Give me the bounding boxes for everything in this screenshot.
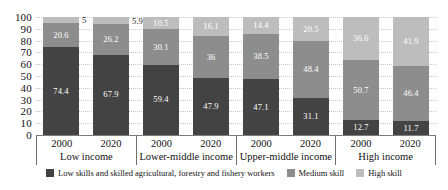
bar-segment-low[interactable]: 47.9	[193, 78, 229, 135]
y-axis-tick-label: 70	[0, 47, 32, 58]
bar-segment-med[interactable]: 36	[193, 36, 229, 78]
bar-segment-low[interactable]: 11.7	[393, 121, 429, 135]
bar-segment-high[interactable]: 20.5	[293, 17, 329, 41]
y-axis-tick-label: 50	[0, 71, 32, 82]
bar-segment-value: 47.1	[253, 103, 268, 112]
category-group: 20002020High income	[336, 135, 435, 165]
bar-segment-value: 26.2	[103, 35, 118, 44]
category-year-label: 2000	[51, 137, 72, 150]
stacked-bar[interactable]: 14.438.547.1	[243, 17, 279, 135]
bar-segment-value: 46.4	[403, 89, 418, 98]
bar-segment-med[interactable]: 20.6	[43, 23, 79, 47]
bar-group: 10.530.159.416.13647.9	[136, 17, 236, 135]
bar-segment-value: 30.1	[153, 43, 168, 52]
bar-group: 14.438.547.120.548.431.1	[236, 17, 336, 135]
y-axis: 1009080706050403020100	[0, 10, 32, 142]
legend-label: High skill	[368, 168, 402, 178]
bar-segment-value: 67.9	[103, 90, 118, 99]
y-axis-tick-label: 0	[0, 130, 32, 141]
bar-segment-value: 41.9	[403, 37, 418, 46]
bar-segment-high[interactable]: 36.6	[343, 17, 379, 60]
category-axis: 20002020Low income20002020Lower-middle i…	[36, 135, 436, 165]
bar-segment-med[interactable]: 48.4	[293, 41, 329, 98]
stacked-bar[interactable]: 36.650.712.7	[343, 17, 379, 135]
bar-segment-low[interactable]: 59.4	[143, 65, 179, 135]
category-years: 20002020	[37, 135, 136, 150]
bar-segment-value: 12.7	[353, 123, 368, 132]
bar-segment-med[interactable]: 30.1	[143, 29, 179, 65]
bar-group: 36.650.712.741.946.411.7	[336, 17, 436, 135]
bar-segment-high[interactable]: 14.4	[243, 17, 279, 34]
bar-segment-med[interactable]: 26.2	[93, 24, 129, 55]
category-group-label: Low income	[37, 150, 136, 163]
category-year-label: 2020	[200, 137, 221, 150]
category-year-label: 2020	[400, 137, 421, 150]
bar-segment-low[interactable]: 47.1	[243, 79, 279, 135]
stacked-bar-chart: 1009080706050403020100 520.674.45.926.26…	[0, 0, 448, 190]
category-years: 20002020	[137, 135, 236, 150]
stacked-bar[interactable]: 520.674.4	[43, 17, 79, 135]
stacked-bar[interactable]: 16.13647.9	[193, 17, 229, 135]
category-years: 20002020	[237, 135, 336, 150]
legend-item[interactable]: Medium skill	[287, 168, 345, 178]
category-year-label: 2000	[151, 137, 172, 150]
legend-label: Low skills and skilled agricultural, for…	[58, 168, 274, 178]
category-year-label: 2020	[101, 137, 122, 150]
bar-segment-value: 36	[207, 53, 216, 62]
bar-segment-low[interactable]: 74.4	[43, 47, 79, 135]
category-year-label: 2000	[350, 137, 371, 150]
legend-item[interactable]: Low skills and skilled agricultural, for…	[46, 168, 274, 178]
y-axis-tick-label: 60	[0, 59, 32, 70]
bar-segment-value: 14.4	[253, 21, 268, 30]
bar-segment-med[interactable]: 46.4	[393, 66, 429, 121]
bar-segment-value: 20.6	[53, 31, 68, 40]
bar-segment-value: 74.4	[53, 87, 68, 96]
category-group: 20002020Upper-middle income	[237, 135, 337, 165]
bar-segment-value: 59.4	[153, 95, 168, 104]
bar-segment-high[interactable]: 5.9	[93, 17, 129, 24]
legend-label: Medium skill	[299, 168, 345, 178]
legend-swatch-icon	[287, 169, 295, 177]
plot-area: 520.674.45.926.267.910.530.159.416.13647…	[36, 17, 436, 135]
y-axis-tick-label: 30	[0, 94, 32, 105]
stacked-bar[interactable]: 41.946.411.7	[393, 17, 429, 135]
stacked-bar[interactable]: 20.548.431.1	[293, 17, 329, 135]
bar-segment-med[interactable]: 38.5	[243, 34, 279, 79]
bar-segment-low[interactable]: 12.7	[343, 120, 379, 135]
bar-segment-value: 36.6	[353, 34, 368, 43]
stacked-bar[interactable]: 10.530.159.4	[143, 17, 179, 135]
y-axis-tick-label: 90	[0, 23, 32, 34]
category-group-label: Upper-middle income	[237, 150, 336, 163]
stacked-bar[interactable]: 5.926.267.9	[93, 17, 129, 135]
category-year-label: 2020	[300, 137, 321, 150]
bar-segment-value: 48.4	[303, 65, 318, 74]
bar-segment-value: 20.5	[303, 25, 318, 34]
y-axis-tick-label: 40	[0, 82, 32, 93]
y-axis-tick-label: 20	[0, 106, 32, 117]
bar-segment-value: 11.7	[404, 124, 419, 133]
bar-segment-high[interactable]: 10.5	[143, 17, 179, 29]
category-years: 20002020	[336, 135, 435, 150]
y-axis-tick-label: 80	[0, 35, 32, 46]
bar-segment-high[interactable]: 16.1	[193, 17, 229, 36]
category-year-label: 2000	[251, 137, 272, 150]
bar-segment-high[interactable]: 41.9	[393, 17, 429, 66]
legend-swatch-icon	[46, 169, 54, 177]
category-group-label: High income	[336, 150, 435, 163]
y-axis-tick-label: 10	[0, 118, 32, 129]
bar-segment-low[interactable]: 31.1	[293, 98, 329, 135]
bar-groups: 520.674.45.926.267.910.530.159.416.13647…	[36, 17, 436, 135]
bar-segment-value: 38.5	[253, 52, 268, 61]
category-group-label: Lower-middle income	[137, 150, 236, 163]
bar-segment-med[interactable]: 50.7	[343, 60, 379, 120]
bar-group: 520.674.45.926.267.9	[36, 17, 136, 135]
bar-segment-value: 5	[82, 15, 86, 24]
legend-item[interactable]: High skill	[356, 168, 402, 178]
bar-segment-low[interactable]: 67.9	[93, 55, 129, 135]
category-group: 20002020Lower-middle income	[137, 135, 237, 165]
y-axis-tick-label: 100	[0, 12, 32, 23]
legend-swatch-icon	[356, 169, 364, 177]
chart-legend: Low skills and skilled agricultural, for…	[0, 168, 448, 178]
bar-segment-value: 31.1	[303, 112, 318, 121]
bar-segment-value: 16.1	[203, 22, 218, 31]
